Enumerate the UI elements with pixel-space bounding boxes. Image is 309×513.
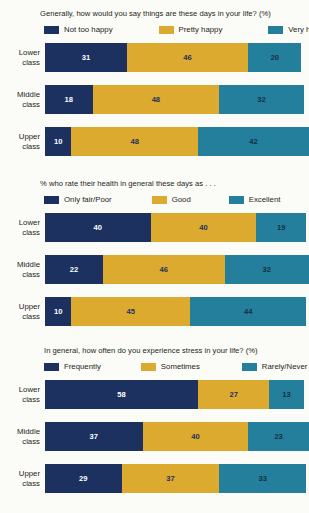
bar-segment: 48 [93,85,220,114]
chart-panel-stress: In general, how often do you experience … [0,345,309,495]
stacked-bar: 10 45 44 [45,297,309,326]
legend-label: Pretty happy [179,25,223,34]
legend-item: Pretty happy [159,25,223,34]
bar-segment: 23 [248,422,309,451]
chart-row: Upper class 10 48 42 [0,125,309,158]
row-label: Middle class [0,260,45,279]
legend-swatch-icon [44,363,59,371]
bar-segment: 44 [190,297,306,326]
row-label-line2: class [0,100,40,110]
legend-item: Excellent [229,195,281,204]
legend-swatch-icon [44,196,59,204]
panel-title: % who rate their health in general these… [40,178,309,189]
bar-segment: 29 [45,464,122,493]
bar-segment: 18 [45,85,93,114]
stacked-bar: 31 46 20 [45,43,309,72]
row-label: Upper class [0,132,45,151]
bar-segment: 37 [122,464,220,493]
stacked-bar: 22 46 32 [45,255,309,284]
legend-label: Good [172,195,191,204]
row-label-line1: Lower [0,385,40,395]
legend-label: Very happy [288,25,309,34]
row-label-line2: class [0,142,40,152]
stacked-bar: 18 48 32 [45,85,309,114]
bar-segment: 48 [71,127,198,156]
bar-segment: 27 [198,380,269,409]
bar-segment: 37 [45,422,143,451]
stacked-bar: 58 27 13 [45,380,309,409]
bar-segment: 22 [45,255,103,284]
legend-label: Only fair/Poor [64,195,112,204]
row-label-line2: class [0,228,40,238]
row-label-line1: Upper [0,469,40,479]
legend-label: Excellent [249,195,281,204]
bar-segment: 13 [269,380,303,409]
row-label: Middle class [0,90,45,109]
chart-figure: Generally, how would you say things are … [0,0,309,513]
bar-segment: 40 [143,422,249,451]
row-label: Lower class [0,218,45,237]
legend-item: Only fair/Poor [44,195,112,204]
bar-segment: 10 [45,127,71,156]
chart-row: Upper class 29 37 33 [0,462,309,495]
chart-rows: Lower class 31 46 20 Middle class 18 48 … [0,41,309,158]
row-label-line2: class [0,437,40,447]
row-label-line2: class [0,395,40,405]
row-label: Lower class [0,48,45,67]
bar-segment: 46 [127,43,248,72]
legend-item: Frequently [44,362,101,371]
bar-segment: 33 [219,464,306,493]
bar-segment: 46 [103,255,224,284]
legend-swatch-icon [229,196,244,204]
chart-panel-happiness: Generally, how would you say things are … [0,8,309,158]
bar-segment: 32 [225,255,309,284]
legend-swatch-icon [152,196,167,204]
legend-label: Frequently [64,362,101,371]
bar-segment: 31 [45,43,127,72]
bar-segment: 45 [71,297,190,326]
legend-label: Not too happy [64,25,113,34]
row-label: Lower class [0,385,45,404]
stacked-bar: 29 37 33 [45,464,309,493]
bar-segment: 40 [151,213,257,242]
bar-segment: 42 [198,127,309,156]
stacked-bar: 37 40 23 [45,422,309,451]
chart-legend: Frequently Sometimes Rarely/Never [44,361,309,372]
row-label-line1: Middle [0,427,40,437]
bar-segment: 32 [219,85,303,114]
row-label-line1: Lower [0,218,40,228]
legend-item: Sometimes [141,362,200,371]
chart-legend: Not too happy Pretty happy Very happy [44,24,309,35]
bar-segment: 10 [45,297,71,326]
chart-row: Lower class 31 46 20 [0,41,309,74]
row-label-line1: Upper [0,302,40,312]
row-label-line2: class [0,312,40,322]
panel-title: Generally, how would you say things are … [40,8,309,19]
chart-rows: Lower class 40 40 19 Middle class 22 46 … [0,211,309,328]
row-label: Upper class [0,469,45,488]
legend-label: Rarely/Never [262,362,308,371]
legend-swatch-icon [44,26,59,34]
bar-segment: 58 [45,380,198,409]
chart-row: Middle class 18 48 32 [0,83,309,116]
bar-segment: 40 [45,213,151,242]
row-label-line1: Upper [0,132,40,142]
chart-row: Lower class 58 27 13 [0,378,309,411]
legend-swatch-icon [268,26,283,34]
bar-segment: 20 [248,43,301,72]
legend-swatch-icon [242,363,257,371]
chart-row: Upper class 10 45 44 [0,295,309,328]
chart-panel-health: % who rate their health in general these… [0,178,309,328]
row-label-line1: Middle [0,260,40,270]
row-label-line2: class [0,270,40,280]
row-label-line2: class [0,58,40,68]
panel-title: In general, how often do you experience … [44,345,309,356]
chart-row: Middle class 22 46 32 [0,253,309,286]
chart-row: Lower class 40 40 19 [0,211,309,244]
stacked-bar: 10 48 42 [45,127,309,156]
stacked-bar: 40 40 19 [45,213,309,242]
legend-swatch-icon [141,363,156,371]
bar-segment: 19 [256,213,306,242]
legend-swatch-icon [159,26,174,34]
row-label-line2: class [0,479,40,489]
